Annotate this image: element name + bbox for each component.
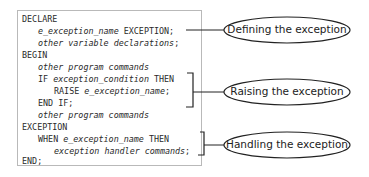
handling-bracket [198,132,204,155]
handling-label: Handling the exception [226,138,348,150]
raising-label: Raising the exception [226,85,348,97]
defining-label: Defining the exception [226,23,348,35]
raising-bracket [186,73,193,107]
